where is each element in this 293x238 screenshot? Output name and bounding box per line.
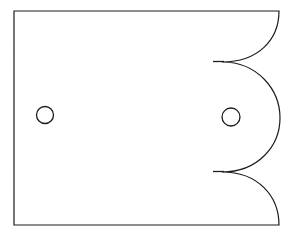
left-hole (37, 107, 54, 124)
right-hole (222, 108, 240, 126)
figure-svg (0, 0, 293, 238)
drawing-canvas (0, 0, 293, 238)
